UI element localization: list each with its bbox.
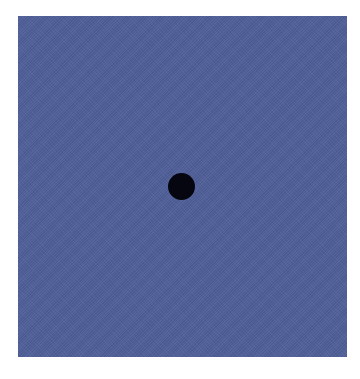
black-dot [168,173,195,200]
image-canvas [0,0,360,379]
